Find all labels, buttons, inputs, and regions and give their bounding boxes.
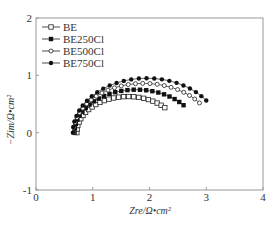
data-point: [152, 76, 156, 80]
data-point: [119, 89, 123, 93]
data-point: [98, 100, 102, 104]
legend-label: BE250Cl: [63, 33, 104, 45]
legend-marker: [49, 61, 53, 65]
data-point: [144, 76, 148, 80]
data-point: [150, 89, 154, 93]
data-point: [121, 94, 125, 98]
legend-marker: [49, 25, 53, 29]
data-point: [199, 94, 203, 98]
data-point: [74, 114, 78, 118]
data-point: [188, 86, 192, 90]
data-point: [169, 85, 173, 89]
y-tick-label: 0: [27, 127, 33, 139]
data-point: [177, 100, 181, 104]
data-point: [163, 105, 167, 109]
data-point: [100, 91, 104, 95]
data-point: [72, 119, 76, 123]
x-axis-label: Zre/Ω•cm²: [129, 205, 172, 216]
data-point: [141, 96, 145, 100]
data-point: [114, 81, 118, 85]
data-point: [113, 90, 117, 94]
data-point: [119, 84, 123, 88]
data-point: [101, 86, 105, 90]
data-point: [133, 82, 137, 86]
data-point: [108, 83, 112, 87]
data-point: [197, 101, 201, 105]
x-tick-label: 0: [33, 191, 39, 203]
data-point: [151, 99, 155, 103]
data-point: [116, 95, 120, 99]
data-point: [126, 83, 130, 87]
data-point: [176, 88, 180, 92]
data-point: [148, 82, 152, 86]
data-point: [95, 90, 99, 94]
data-point: [188, 93, 192, 97]
legend-label: BE750Cl: [63, 57, 104, 69]
legend-marker: [49, 49, 53, 53]
data-point: [112, 86, 116, 90]
legend-label: BE: [63, 21, 77, 33]
data-point: [172, 97, 176, 101]
data-point: [137, 76, 141, 80]
data-point: [71, 130, 75, 134]
legend-label: BE500Cl: [63, 45, 104, 57]
data-point: [174, 81, 178, 85]
data-point: [131, 88, 135, 92]
x-tick-label: 2: [147, 191, 153, 203]
data-point: [156, 90, 160, 94]
data-point: [193, 97, 197, 101]
data-point: [129, 77, 133, 81]
data-point: [126, 94, 130, 98]
data-point: [90, 94, 94, 98]
x-tick-label: 4: [260, 191, 266, 203]
data-point: [106, 88, 110, 92]
data-point: [141, 81, 145, 85]
y-tick-label: 1: [27, 69, 33, 81]
data-point: [102, 98, 106, 102]
data-point: [167, 94, 171, 98]
y-axis-label: −Zim/Ω•cm²: [5, 94, 16, 145]
legend-item: BE500Cl: [42, 45, 104, 57]
data-point: [138, 88, 142, 92]
data-point: [155, 82, 159, 86]
data-point: [182, 90, 186, 94]
data-point: [146, 97, 150, 101]
x-tick-label: 1: [90, 191, 96, 203]
nyquist-chart: 01234-1012 BEBE250ClBE500ClBE750Cl −Zim/…: [0, 0, 277, 225]
legend-item: BE250Cl: [42, 33, 104, 45]
y-tick-label: -1: [23, 184, 32, 196]
legend-item: BE: [42, 21, 77, 33]
data-point: [94, 94, 98, 98]
data-point: [181, 83, 185, 87]
data-point: [144, 88, 148, 92]
data-point: [71, 125, 75, 129]
data-point: [181, 103, 185, 107]
data-point: [162, 92, 166, 96]
data-point: [107, 97, 111, 101]
data-point: [160, 77, 164, 81]
data-point: [137, 95, 141, 99]
x-tick-label: 3: [204, 191, 210, 203]
data-point: [194, 90, 198, 94]
data-point: [122, 79, 126, 83]
data-point: [204, 98, 208, 102]
data-point: [111, 96, 115, 100]
data-point: [125, 88, 129, 92]
data-point: [81, 103, 85, 107]
data-point: [85, 98, 89, 102]
legend-item: BE750Cl: [42, 57, 104, 69]
data-point: [132, 95, 136, 99]
data-point: [167, 79, 171, 83]
data-point: [162, 84, 166, 88]
data-point: [77, 108, 81, 112]
y-tick-label: 2: [27, 12, 33, 24]
legend-marker: [49, 37, 53, 41]
